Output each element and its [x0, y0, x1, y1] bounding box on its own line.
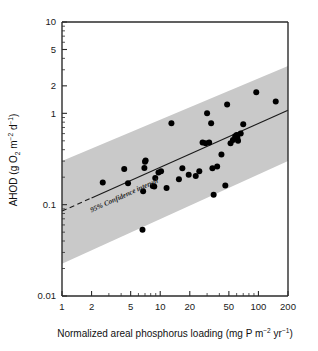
data-point [204, 110, 210, 116]
x-tick-label: 5 [128, 301, 133, 312]
data-point [168, 120, 174, 126]
y-axis-title: AHOD (g O2 m−2 d−1) [7, 114, 21, 207]
data-point [208, 120, 214, 126]
figure-container: 1251020501002000.010.112510 Normalized a… [0, 0, 318, 351]
x-tick-label: 10 [155, 301, 166, 312]
x-tick-label: 100 [251, 301, 267, 312]
y-tick-label: 5 [51, 44, 56, 55]
data-point [186, 172, 192, 178]
data-point [253, 89, 259, 95]
data-point [121, 166, 127, 172]
data-point [218, 151, 224, 157]
y-tick-label: 0.01 [38, 290, 57, 301]
x-tick-label: 200 [280, 301, 296, 312]
data-point [222, 183, 228, 189]
x-axis-title: Normalized areal phosphorus loading (mg … [57, 327, 293, 339]
data-point [139, 227, 145, 233]
y-tick-label: 0.1 [43, 199, 56, 210]
confidence-band-group [62, 66, 288, 264]
data-point [224, 101, 230, 107]
data-point [240, 121, 246, 127]
data-point [164, 185, 170, 191]
data-point [238, 131, 244, 137]
data-point [143, 157, 149, 163]
data-point [235, 138, 241, 144]
y-tick-label: 1 [51, 108, 56, 119]
x-tick-label: 1 [59, 301, 64, 312]
data-point [176, 176, 182, 182]
y-tick-label: 10 [45, 16, 56, 27]
data-point [214, 163, 220, 169]
svg-text:Normalized areal phosphorus lo: Normalized areal phosphorus loading (mg … [57, 327, 293, 339]
data-point [211, 192, 217, 198]
data-point [273, 98, 279, 104]
scatter-plot: 1251020501002000.010.112510 Normalized a… [0, 0, 318, 351]
y-tick-label: 2 [51, 80, 56, 91]
data-point [179, 165, 185, 171]
data-point [125, 180, 131, 186]
x-tick-label: 2 [89, 301, 94, 312]
data-point [100, 179, 106, 185]
x-tick-label: 20 [184, 301, 195, 312]
svg-text:AHOD (g O2 m−2 d−1): AHOD (g O2 m−2 d−1) [7, 114, 21, 207]
data-point [206, 139, 212, 145]
x-tick-label: 50 [224, 301, 235, 312]
data-point [158, 168, 164, 174]
data-point [196, 168, 202, 174]
data-point [141, 165, 147, 171]
confidence-band-area [62, 66, 288, 264]
